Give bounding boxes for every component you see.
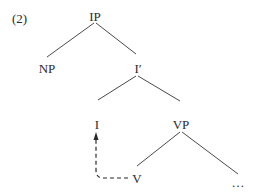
edge-ip-ibar [96, 23, 136, 54]
node-ellipsis: … [232, 176, 245, 189]
node-i: I [95, 118, 99, 131]
arrowhead-icon [94, 132, 99, 140]
example-number: (2) [12, 12, 27, 25]
edge-ibar-vp [138, 76, 180, 101]
edge-ibar-i [98, 76, 136, 100]
node-i-bar: I′ [134, 62, 141, 75]
node-ip: IP [89, 10, 101, 23]
edge-vp-v [137, 132, 180, 166]
tree-branches [0, 0, 254, 193]
syntax-tree-diagram: (2) IP NP I′ I VP V … [0, 0, 254, 193]
movement-arrow [96, 140, 128, 178]
node-vp: VP [173, 118, 190, 131]
node-np: NP [39, 62, 56, 75]
edge-vp-ellipsis [182, 132, 238, 174]
node-v: V [132, 172, 141, 185]
edge-ip-np [47, 23, 94, 57]
